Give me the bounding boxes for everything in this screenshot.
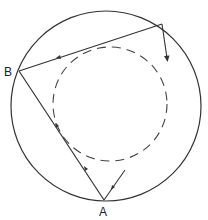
- point-label-b: B: [4, 65, 12, 79]
- reflection-diagram: B A: [0, 0, 208, 220]
- inner-dashed-circle: [53, 47, 167, 161]
- outgoing-ray: [162, 24, 167, 58]
- point-label-a: A: [99, 205, 107, 219]
- chord-b-c: [19, 24, 162, 71]
- outer-circle: [11, 11, 201, 201]
- arrow-icon: [164, 56, 170, 63]
- incoming-ray: [104, 170, 125, 200]
- chord-a-b: [19, 71, 104, 200]
